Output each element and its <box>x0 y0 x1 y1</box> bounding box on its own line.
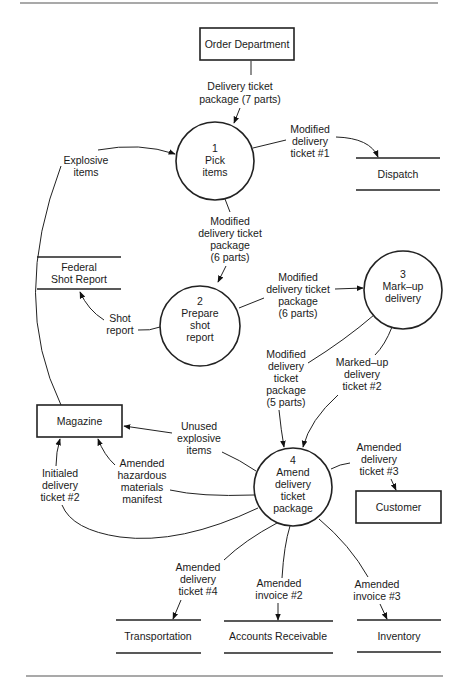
flow-label: delivery ticket <box>266 283 330 295</box>
entity-magazine: Magazine <box>37 405 122 437</box>
store-dispatch: Dispatch <box>356 158 440 190</box>
flow-label: items <box>186 444 211 456</box>
flow-mark-up-to-amend-ticket-2: Marked–up delivery ticket #2 <box>303 327 392 447</box>
flow-label: package <box>210 239 250 251</box>
flow-label: Unused <box>181 420 217 432</box>
flow-label: Modified <box>210 215 250 227</box>
flow-prepare-shot-report-to-mark-up-delivery: Modified delivery ticket package (6 part… <box>239 271 363 319</box>
process-number: 3 <box>400 268 406 280</box>
flow-label: invoice #2 <box>255 589 302 601</box>
flow-amend-to-customer: Amended delivery ticket #3 <box>331 441 402 490</box>
flow-label: materials <box>121 481 164 493</box>
flow-prepare-shot-report-to-federal-shot-report: Shot report <box>80 292 160 336</box>
entity-label: Order Department <box>205 38 290 50</box>
flow-amend-to-inventory: Amended invoice #3 <box>319 519 401 619</box>
process-label: package <box>273 502 313 514</box>
flow-order-to-pick-items: Delivery ticket package (7 parts) <box>199 61 281 123</box>
flow-label: Amended <box>355 578 400 590</box>
flow-label: Amended <box>357 441 402 453</box>
flow-label: (6 parts) <box>278 307 317 319</box>
flow-label: package <box>266 384 306 396</box>
process-number: 1 <box>212 142 218 154</box>
flow-label: report <box>106 324 134 336</box>
store-label: Dispatch <box>378 168 419 180</box>
flow-pick-items-to-dispatch: Modified delivery ticket #1 <box>253 123 378 159</box>
process-label: Mark–up <box>383 280 424 292</box>
flow-label: delivery <box>268 360 305 372</box>
flow-label: Amended <box>176 561 221 573</box>
process-4-amend-delivery-ticket-package: 4 Amend delivery ticket package <box>254 448 332 526</box>
flow-label: ticket #2 <box>342 380 381 392</box>
flow-label: delivery ticket <box>198 227 262 239</box>
flow-label: delivery <box>42 479 79 491</box>
entity-customer: Customer <box>356 491 441 523</box>
flow-label: delivery <box>361 453 398 465</box>
flow-label: ticket #4 <box>178 585 217 597</box>
process-label: Pick <box>205 154 226 166</box>
flow-amend-to-transportation: Amended delivery ticket #4 <box>173 523 277 619</box>
entity-label: Customer <box>376 501 422 513</box>
store-label: Shot Report <box>51 273 107 285</box>
flow-label: Modified <box>290 123 330 135</box>
process-label: Prepare <box>181 307 219 319</box>
process-label: report <box>186 331 214 343</box>
process-2-prepare-shot-report: 2 Prepare shot report <box>160 286 240 366</box>
flow-label: Amended <box>120 457 165 469</box>
flow-label: ticket #3 <box>359 465 398 477</box>
process-label: Amend <box>276 466 309 478</box>
flow-label: delivery <box>344 368 381 380</box>
store-label: Inventory <box>377 630 421 642</box>
process-label: shot <box>190 319 210 331</box>
flow-label: Delivery ticket <box>207 80 272 92</box>
process-label: delivery <box>385 292 422 304</box>
store-inventory: Inventory <box>357 620 441 652</box>
process-number: 4 <box>290 454 296 466</box>
flow-label: manifest <box>122 493 162 505</box>
store-accounts-receivable: Accounts Receivable <box>224 621 333 653</box>
flow-label: ticket #1 <box>290 147 329 159</box>
flow-label: Modified <box>266 348 306 360</box>
flow-label: Initialed <box>42 467 78 479</box>
process-3-mark-up-delivery: 3 Mark–up delivery <box>364 251 442 329</box>
flow-label: Modified <box>278 271 318 283</box>
process-1-pick-items: 1 Pick items <box>176 122 254 200</box>
flow-label: items <box>73 166 98 178</box>
flow-label: invoice #3 <box>353 590 400 602</box>
flow-label: Amended <box>257 577 302 589</box>
store-label: Transportation <box>124 630 191 642</box>
flow-label: (5 parts) <box>266 396 305 408</box>
process-number: 2 <box>197 295 203 307</box>
flow-label: Explosive <box>64 154 109 166</box>
flow-label: delivery <box>180 573 217 585</box>
store-label: Federal <box>61 261 97 273</box>
store-transportation: Transportation <box>116 620 201 653</box>
flow-label: Marked–up <box>336 356 389 368</box>
entity-order-department: Order Department <box>200 28 294 60</box>
entity-label: Magazine <box>57 415 103 427</box>
store-federal-shot-report: Federal Shot Report <box>37 257 121 289</box>
flow-label: package <box>278 295 318 307</box>
process-label: ticket <box>281 490 306 502</box>
data-flow-diagram: Order Department Magazine Customer 1 Pic… <box>0 0 464 686</box>
flow-label: (6 parts) <box>210 251 249 263</box>
flow-label: ticket #2 <box>40 491 79 503</box>
flow-label: explosive <box>177 432 221 444</box>
flow-amend-to-accounts-receivable: Amended invoice #2 <box>255 526 302 620</box>
flow-label: package (7 parts) <box>199 93 281 105</box>
process-label: items <box>202 166 227 178</box>
flow-label: Shot <box>109 312 131 324</box>
store-label: Accounts Receivable <box>229 630 327 642</box>
flow-amend-to-magazine-hazmat-manifest: Amended hazardous materials manifest <box>98 439 254 505</box>
flow-label: ticket <box>274 372 299 384</box>
flow-label: hazardous <box>117 469 166 481</box>
flow-label: delivery <box>292 135 329 147</box>
flow-pick-items-to-prepare-shot-report: Modified delivery ticket package (6 part… <box>198 199 262 282</box>
process-label: delivery <box>275 478 312 490</box>
